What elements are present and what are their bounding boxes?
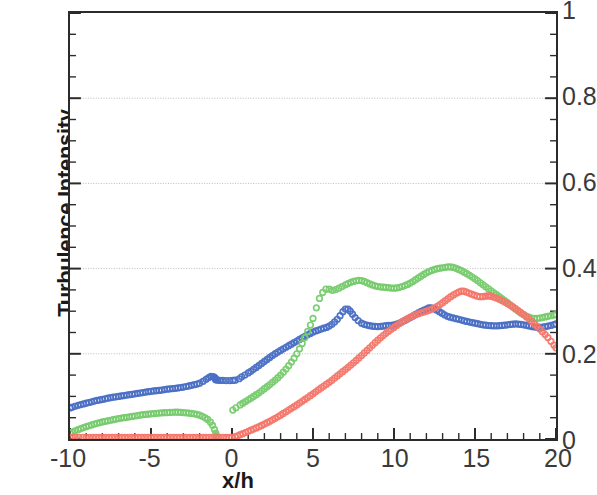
data-series-group xyxy=(70,264,556,439)
y-tick-label: 0.4 xyxy=(562,256,597,281)
y-minor-ticks xyxy=(70,34,556,417)
y-tick-label: 0.8 xyxy=(562,84,597,109)
x-major-ticks xyxy=(70,428,556,439)
green-series xyxy=(70,264,556,439)
plot-svg xyxy=(70,13,556,439)
y-tick-label: 0.2 xyxy=(562,342,597,367)
plot-area xyxy=(68,11,558,441)
x-axis-title: x/h xyxy=(0,468,596,494)
x-axis-title-text: x/h xyxy=(222,468,254,493)
y-major-ticks xyxy=(70,13,556,439)
y-tick-label: 1 xyxy=(562,0,576,23)
y-tick-label: 0.6 xyxy=(562,170,597,195)
